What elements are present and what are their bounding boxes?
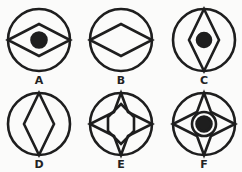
figure-b bbox=[90, 9, 152, 71]
label-f: F bbox=[194, 158, 214, 171]
label-c: C bbox=[194, 74, 214, 87]
figure-f bbox=[173, 93, 235, 155]
outer-circle bbox=[90, 9, 152, 71]
label-d: D bbox=[29, 158, 49, 171]
center-dot bbox=[197, 33, 211, 47]
label-b: B bbox=[111, 74, 131, 87]
center-dot bbox=[32, 33, 47, 48]
figure-c bbox=[173, 9, 235, 71]
figure-d bbox=[8, 93, 70, 155]
label-a: A bbox=[29, 74, 49, 87]
inner-octagon bbox=[108, 104, 134, 144]
figure-a bbox=[8, 9, 70, 71]
vertical-diamond bbox=[24, 93, 54, 155]
horizontal-diamond bbox=[90, 24, 152, 56]
outer-circle bbox=[8, 93, 70, 155]
label-e: E bbox=[111, 158, 131, 171]
center-dot bbox=[197, 117, 212, 132]
figure-e bbox=[90, 93, 152, 155]
